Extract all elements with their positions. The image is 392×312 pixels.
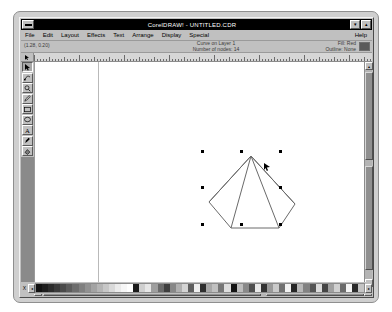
ruler-tick <box>49 57 50 61</box>
ruler-tick <box>187 59 188 61</box>
ruler-tick <box>271 59 272 61</box>
ruler-tick <box>361 59 362 61</box>
ruler-tick <box>133 59 134 61</box>
ruler-tick <box>139 57 140 61</box>
ruler-tick <box>304 55 305 61</box>
ruler-tick <box>229 57 230 61</box>
fill-tool[interactable] <box>22 146 33 156</box>
ruler-tick <box>145 59 146 61</box>
ruler-tick <box>88 59 89 61</box>
palette-swatch[interactable] <box>358 284 364 292</box>
ruler-tick <box>40 59 41 61</box>
fill-color-swatch[interactable] <box>359 42 370 51</box>
zoom-tool[interactable] <box>22 83 33 93</box>
palette-scroll-left[interactable]: ◂ <box>28 284 35 293</box>
ruler-tick <box>358 59 359 61</box>
ruler-tick <box>115 59 116 61</box>
ruler-tick <box>220 59 221 61</box>
menu-help[interactable]: Help <box>355 32 372 38</box>
ruler-tick <box>166 59 167 61</box>
ruler-tick <box>61 59 62 61</box>
system-menu-icon[interactable] <box>22 20 34 29</box>
vertical-scroll-thumb-lower[interactable] <box>365 166 373 270</box>
ruler-tick <box>346 59 347 61</box>
outline-pen-tool[interactable] <box>22 136 33 146</box>
ruler-tick <box>163 59 164 61</box>
ruler-tick <box>103 59 104 61</box>
selection-handle[interactable] <box>240 150 243 153</box>
ruler-tick <box>334 57 335 61</box>
ruler-tick <box>112 59 113 61</box>
drawing-canvas[interactable] <box>34 62 364 287</box>
ruler-tick <box>151 59 152 61</box>
ruler-tick <box>67 59 68 61</box>
ruler-tick <box>190 59 191 61</box>
outline-status-label: Outline: None <box>325 47 356 53</box>
selection-handle[interactable] <box>279 223 282 226</box>
ruler-tick <box>175 59 176 61</box>
ruler-tick <box>355 59 356 61</box>
ruler-tick <box>295 59 296 61</box>
toolbox-column <box>21 157 34 287</box>
palette-close-button[interactable]: X <box>21 284 28 293</box>
ruler-tick <box>196 59 197 61</box>
ruler-tick <box>193 59 194 61</box>
ruler-tick <box>64 57 65 61</box>
ruler-tick <box>148 59 149 61</box>
vertical-scrollbar[interactable]: ▴ ▾ <box>364 62 372 287</box>
ellipse-tool[interactable] <box>22 115 33 125</box>
vertical-scroll-thumb[interactable] <box>365 72 373 160</box>
ruler-tick <box>301 59 302 61</box>
vector-shape[interactable] <box>35 62 364 287</box>
menu-display[interactable]: Display <box>158 32 186 38</box>
ruler-tick <box>106 59 107 61</box>
selection-handle[interactable] <box>279 186 282 189</box>
ruler-tick <box>46 59 47 61</box>
ruler-tick <box>286 59 287 61</box>
shape-outline[interactable] <box>209 156 295 228</box>
selection-handle[interactable] <box>279 150 282 153</box>
palette-scroll-right[interactable]: ▸ <box>365 284 372 293</box>
ruler-tick <box>235 59 236 61</box>
palette-swatches[interactable] <box>35 283 365 293</box>
ruler-tick <box>172 59 173 61</box>
menu-layout[interactable]: Layout <box>57 32 83 38</box>
svg-text:A: A <box>25 127 30 134</box>
ruler-tick <box>325 59 326 61</box>
menu-arrange[interactable]: Arrange <box>128 32 157 38</box>
ruler-tick <box>241 59 242 61</box>
menu-special[interactable]: Special <box>185 32 213 38</box>
menu-text[interactable]: Text <box>109 32 128 38</box>
selection-handle[interactable] <box>240 223 243 226</box>
ruler-tick <box>259 55 260 61</box>
ruler-tick <box>223 59 224 61</box>
ruler-tick <box>214 55 215 61</box>
maximize-button[interactable]: ▴ <box>361 20 371 29</box>
ruler-tick <box>343 59 344 61</box>
selection-handle[interactable] <box>201 223 204 226</box>
tool-strip: A <box>21 62 34 157</box>
selection-handle[interactable] <box>201 186 204 189</box>
minimize-button[interactable]: ▾ <box>350 20 360 29</box>
rectangle-tool[interactable] <box>22 104 33 114</box>
ruler-tick <box>328 59 329 61</box>
scroll-up-button[interactable]: ▴ <box>365 62 373 70</box>
ruler-tick <box>97 59 98 61</box>
menu-edit[interactable]: Edit <box>39 32 57 38</box>
ruler-tick <box>34 55 35 61</box>
pick-tool[interactable] <box>22 62 33 72</box>
ruler-tick <box>85 59 86 61</box>
ruler-tick <box>367 59 368 61</box>
ruler-tick <box>364 57 365 61</box>
menu-effects[interactable]: Effects <box>83 32 109 38</box>
color-palette: X ◂ ▸ <box>21 282 372 294</box>
shape-tool[interactable] <box>22 73 33 83</box>
ruler-tick <box>265 59 266 61</box>
horizontal-ruler[interactable] <box>34 53 372 62</box>
pencil-tool[interactable] <box>22 94 33 104</box>
ruler-tick <box>169 55 170 61</box>
ruler-corner[interactable] <box>21 53 34 62</box>
menu-file[interactable]: File <box>21 32 39 38</box>
selection-handle[interactable] <box>201 150 204 153</box>
text-tool[interactable]: A <box>22 125 33 135</box>
